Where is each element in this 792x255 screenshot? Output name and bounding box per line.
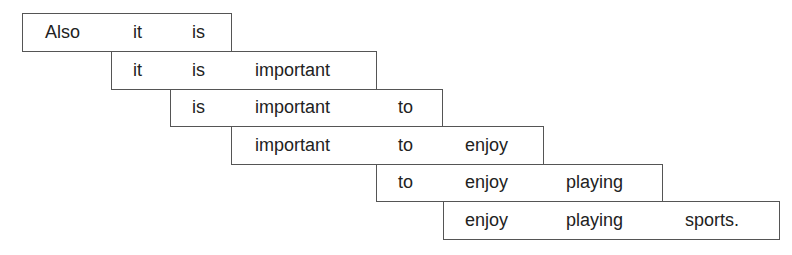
word: playing (566, 211, 623, 229)
word: Also (45, 23, 80, 41)
word: important (255, 98, 330, 116)
word: to (398, 136, 413, 154)
word: it (133, 61, 142, 79)
word: enjoy (465, 211, 508, 229)
word: it (133, 23, 142, 41)
word: is (192, 23, 205, 41)
word: to (398, 173, 413, 191)
word: to (398, 98, 413, 116)
word: sports. (685, 211, 739, 229)
word: important (255, 61, 330, 79)
word: important (255, 136, 330, 154)
word: enjoy (465, 136, 508, 154)
word: is (192, 61, 205, 79)
word: is (192, 98, 205, 116)
trigram-box-2 (111, 51, 377, 90)
word: playing (566, 173, 623, 191)
word: enjoy (465, 173, 508, 191)
